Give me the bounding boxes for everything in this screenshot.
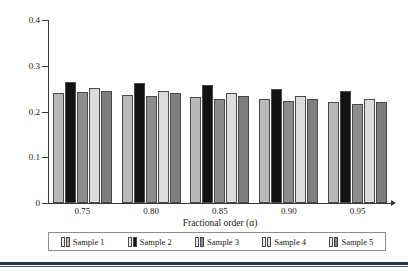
bar-0.75-sample-4[interactable] (89, 88, 100, 203)
bar-0.90-sample-4[interactable] (295, 96, 306, 203)
bar-0.90-sample-5[interactable] (307, 99, 318, 203)
bar-0.90-sample-1[interactable] (259, 99, 270, 203)
legend-item-sample-4[interactable]: Sample 4 (262, 237, 306, 247)
x-tick-label-0.85: 0.85 (186, 206, 255, 216)
legend-label: Sample 3 (207, 237, 239, 247)
bar-0.75-sample-5[interactable] (101, 91, 112, 203)
footer-rule-secondary (0, 266, 408, 267)
bar-group-0.80: 0.80 (117, 20, 186, 203)
legend-swatch-icon (195, 237, 204, 247)
x-tick-label-0.75: 0.75 (48, 206, 117, 216)
bar-0.85-sample-1[interactable] (190, 97, 201, 203)
bar-group-0.95: 0.95 (323, 20, 392, 203)
legend-swatch-icon (61, 237, 70, 247)
y-tick-label: 0.2 (29, 107, 40, 116)
bar-0.85-sample-3[interactable] (214, 99, 225, 203)
x-axis-title: Fractional order (α) (48, 218, 392, 228)
bar-0.80-sample-5[interactable] (170, 93, 181, 203)
legend-swatch-icon (128, 237, 137, 247)
bar-group-0.85: 0.85 (186, 20, 255, 203)
bar-0.95-sample-2[interactable] (340, 91, 351, 203)
bar-0.90-sample-2[interactable] (271, 89, 282, 203)
bar-0.85-sample-5[interactable] (238, 96, 249, 203)
bar-0.90-sample-3[interactable] (283, 101, 294, 203)
y-tick-mark (42, 203, 48, 204)
y-tick-label: 0.4 (29, 16, 40, 25)
bar-0.95-sample-1[interactable] (328, 102, 339, 203)
figure-container: Mean absolute error (MAE) 00.10.20.30.4 … (0, 0, 408, 271)
bar-0.80-sample-2[interactable] (134, 83, 145, 203)
legend-label: Sample 2 (140, 237, 172, 247)
legend-item-sample-1[interactable]: Sample 1 (61, 237, 105, 247)
bar-group-0.75: 0.75 (48, 20, 117, 203)
bar-0.85-sample-4[interactable] (226, 93, 237, 203)
legend-item-sample-2[interactable]: Sample 2 (128, 237, 172, 247)
x-tick-label-0.95: 0.95 (323, 206, 392, 216)
x-tick-label-0.90: 0.90 (254, 206, 323, 216)
y-tick-label: 0.1 (29, 153, 40, 162)
chart-legend: Sample 1Sample 2Sample 3Sample 4Sample 5 (48, 232, 386, 251)
bar-0.75-sample-3[interactable] (77, 92, 88, 203)
legend-label: Sample 4 (274, 237, 306, 247)
bar-0.95-sample-3[interactable] (352, 104, 363, 203)
bar-0.95-sample-4[interactable] (364, 99, 375, 203)
bar-0.80-sample-4[interactable] (158, 91, 169, 203)
y-tick-label: 0 (36, 199, 41, 208)
legend-item-sample-3[interactable]: Sample 3 (195, 237, 239, 247)
legend-swatch-icon (262, 237, 271, 247)
bar-group-0.90: 0.90 (254, 20, 323, 203)
footer-rule (0, 262, 408, 265)
legend-swatch-icon (329, 237, 338, 247)
x-tick-label-0.80: 0.80 (117, 206, 186, 216)
legend-label: Sample 5 (341, 237, 373, 247)
bar-groups: 0.750.800.850.900.95 (48, 20, 392, 203)
x-axis-line (48, 203, 392, 204)
y-tick-label: 0.3 (29, 61, 40, 70)
bar-0.80-sample-3[interactable] (146, 96, 157, 204)
plot-area: 00.10.20.30.4 0.750.800.850.900.95 (48, 20, 392, 204)
bar-0.95-sample-5[interactable] (376, 102, 387, 203)
legend-item-sample-5[interactable]: Sample 5 (329, 237, 373, 247)
bar-0.85-sample-2[interactable] (202, 85, 213, 203)
bar-0.80-sample-1[interactable] (122, 95, 133, 203)
bar-0.75-sample-2[interactable] (65, 82, 76, 203)
bar-0.75-sample-1[interactable] (53, 93, 64, 203)
legend-label: Sample 1 (73, 237, 105, 247)
